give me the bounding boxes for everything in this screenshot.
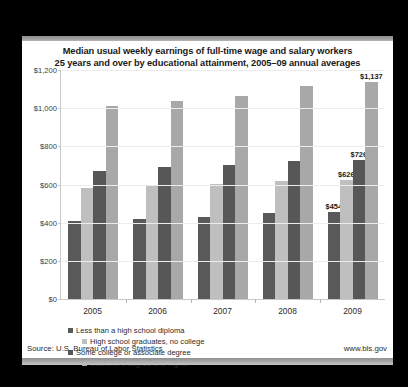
bar[interactable]: $454 <box>328 212 341 299</box>
gridline <box>61 146 385 147</box>
x-axis-label-2008: 2008 <box>255 306 320 320</box>
bar[interactable] <box>210 184 223 299</box>
chart-title-line-2: 25 years and over by educational attainm… <box>22 57 393 69</box>
y-axis-tick-label: $600 <box>40 180 57 189</box>
chart-card: Median usual weekly earnings of full-tim… <box>22 36 393 365</box>
bar[interactable] <box>133 219 146 299</box>
y-axis-tick-label: $800 <box>40 142 57 151</box>
y-axis-tick-mark <box>58 146 61 147</box>
x-axis-tick-mark <box>255 299 256 303</box>
gridline <box>61 223 385 224</box>
y-axis-tick-label: $1,000 <box>34 104 57 113</box>
x-axis-label-2007: 2007 <box>190 306 255 320</box>
plot-wrapper: $0$200$400$600$800$1,000$1,200 $454$626$… <box>22 70 393 320</box>
gridline <box>61 108 385 109</box>
legend-label: Less than a high school diploma <box>76 326 185 335</box>
x-axis-label-2005: 2005 <box>60 306 125 320</box>
y-axis-tick-label: $200 <box>40 256 57 265</box>
bar[interactable]: $1,137 <box>365 82 378 299</box>
x-axis-labels: 20052006200720082009 <box>60 306 385 320</box>
bar[interactable] <box>171 101 184 299</box>
bar[interactable]: $726 <box>353 160 366 299</box>
card-bottom-bar <box>22 358 393 365</box>
bar[interactable] <box>93 171 106 299</box>
y-axis-tick-mark <box>58 185 61 186</box>
y-axis-tick-mark <box>58 299 61 300</box>
bar[interactable] <box>300 86 313 299</box>
plot-area: $454$626$726$1,137 <box>60 70 385 300</box>
y-axis-labels: $0$200$400$600$800$1,000$1,200 <box>22 70 60 302</box>
legend-swatch-icon <box>68 328 73 333</box>
bar[interactable] <box>263 213 276 299</box>
x-axis-label-2006: 2006 <box>125 306 190 320</box>
chart-title-line-1: Median usual weekly earnings of full-tim… <box>22 45 393 57</box>
bar[interactable] <box>235 96 248 299</box>
website-url[interactable]: www.bls.gov <box>344 344 387 353</box>
y-axis-tick-label: $400 <box>40 218 57 227</box>
bar[interactable] <box>146 185 159 299</box>
bar[interactable] <box>106 106 119 299</box>
gridline <box>61 70 385 71</box>
chart-footer: Source: U.S. Bureau of Labor Statistics … <box>22 344 393 357</box>
y-axis-tick-mark <box>58 223 61 224</box>
x-axis-tick-mark <box>191 299 192 303</box>
card-top-bar <box>22 36 393 41</box>
bar[interactable] <box>288 161 301 299</box>
bar-data-label: $1,137 <box>360 72 383 81</box>
y-axis-tick-mark <box>58 108 61 109</box>
bar[interactable] <box>275 181 288 299</box>
x-axis-label-2009: 2009 <box>320 306 385 320</box>
bar[interactable] <box>81 188 94 299</box>
y-axis-tick-mark <box>58 261 61 262</box>
y-axis-tick-label: $1,200 <box>34 66 57 75</box>
y-axis-tick-mark <box>58 70 61 71</box>
x-axis-tick-mark <box>320 299 321 303</box>
bar[interactable] <box>158 167 171 299</box>
x-axis-tick-mark <box>126 299 127 303</box>
source-text: Source: U.S. Bureau of Labor Statistics <box>27 344 163 353</box>
bar[interactable]: $626 <box>340 180 353 299</box>
chart-title: Median usual weekly earnings of full-tim… <box>22 45 393 69</box>
bar[interactable] <box>198 217 211 299</box>
legend-item[interactable]: Less than a high school diploma <box>60 326 231 335</box>
gridline <box>61 261 385 262</box>
y-axis-tick-label: $0 <box>49 295 57 304</box>
gridline <box>61 185 385 186</box>
